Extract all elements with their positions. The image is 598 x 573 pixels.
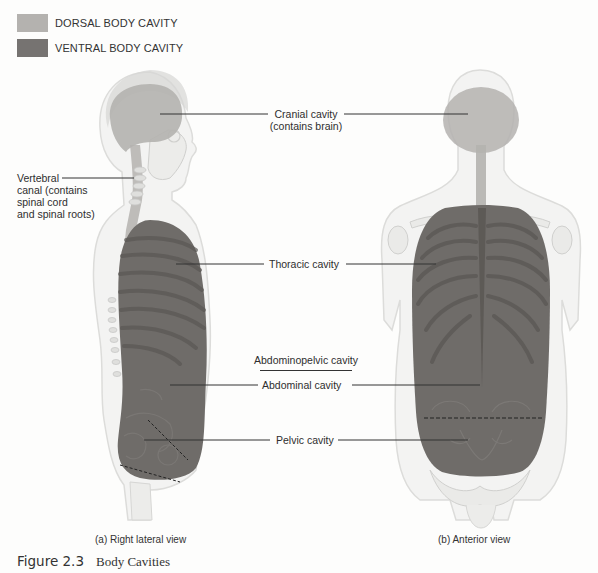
figure-title: Body Cavities [96,554,170,570]
label-vertebral-line1: Vertebral [17,172,95,184]
label-vertebral-canal: Vertebral canal (contains spinal cord an… [17,172,95,220]
caption-anterior-view: (b) Anterior view [438,534,510,545]
caption-lateral-view: (a) Right lateral view [95,534,186,545]
label-vertebral-line3: spinal cord [17,196,95,208]
anterior-body-figure [382,70,581,528]
figure-number: Figure 2.3 [17,553,84,569]
label-pelvic-cavity: Pelvic cavity [276,434,334,446]
label-cranial-line1: Cranial cavity [266,108,346,120]
label-abdominal-cavity: Abdominal cavity [262,379,341,391]
label-cranial-cavity: Cranial cavity (contains brain) [266,108,346,132]
label-thoracic-cavity: Thoracic cavity [269,258,339,270]
abdominopelvic-underline [260,370,352,371]
label-cranial-line2: (contains brain) [266,120,346,132]
lateral-body-figure [93,70,210,520]
label-vertebral-line4: and spinal roots) [17,208,95,220]
label-abdominopelvic-cavity: Abdominopelvic cavity [254,354,358,366]
body-cavities-illustration [0,0,598,573]
label-vertebral-line2: canal (contains [17,184,95,196]
